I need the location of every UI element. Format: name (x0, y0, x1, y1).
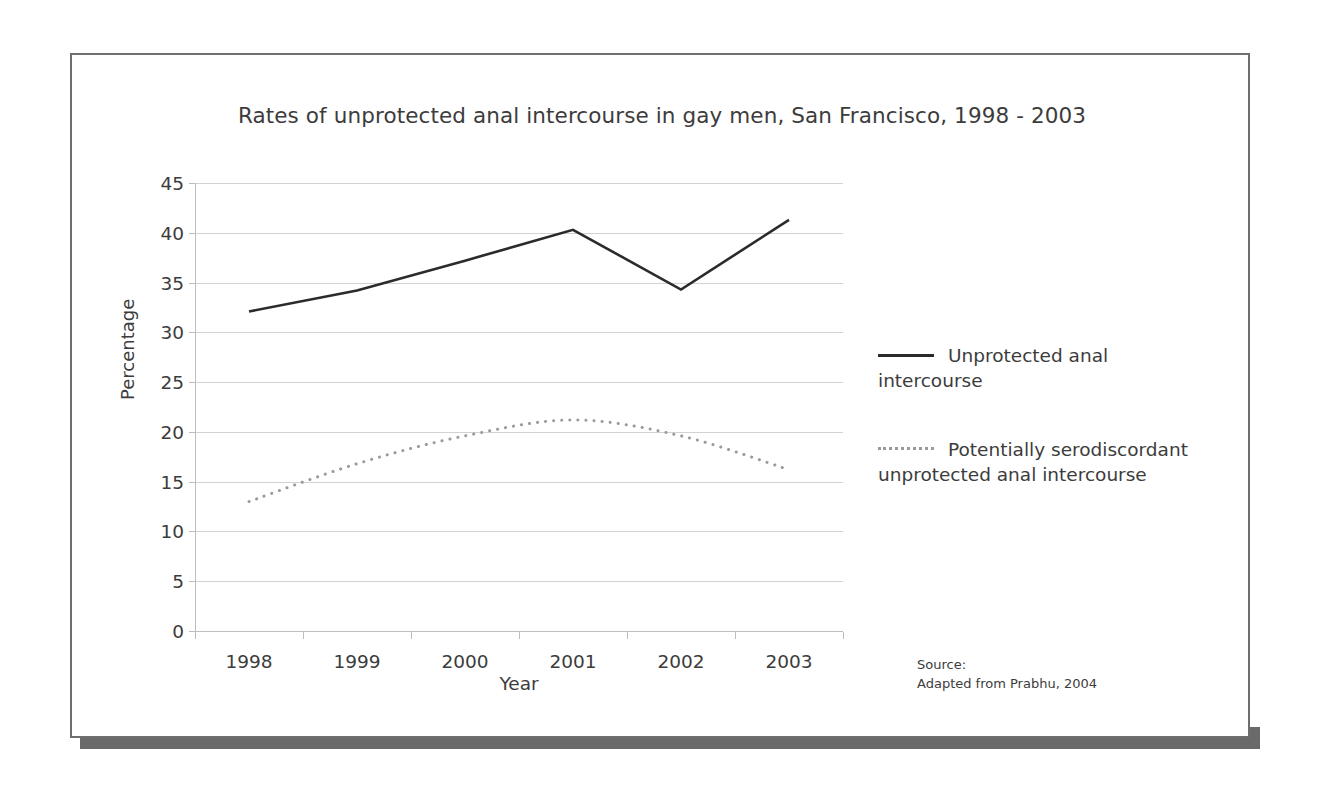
series-line (249, 220, 789, 312)
x-axis-tick-label: 2003 (765, 651, 812, 672)
source-label: Source: (917, 655, 1097, 674)
chart-legend: Unprotected anal intercourse Potentially… (878, 343, 1218, 531)
x-axis-title: Year (195, 673, 843, 694)
plot-area: 051015202530354045 199819992000200120022… (195, 183, 843, 631)
x-axis-tick-label: 1998 (225, 651, 272, 672)
y-axis-tick-label: 0 (172, 621, 184, 642)
series-line (249, 420, 789, 502)
y-axis-tick-label: 35 (160, 272, 184, 293)
y-axis-title: Percentage (117, 299, 138, 400)
source-note: Source: Adapted from Prabhu, 2004 (917, 655, 1097, 693)
x-axis-tick-label: 2001 (549, 651, 596, 672)
y-axis-tick-label: 20 (160, 421, 184, 442)
legend-item-unprotected[interactable]: Unprotected anal intercourse (878, 343, 1218, 393)
legend-item-label: Potentially serodiscordant unprotected a… (878, 439, 1188, 485)
figure-frame: Rates of unprotected anal intercourse in… (70, 53, 1250, 738)
y-axis-tick-label: 45 (160, 173, 184, 194)
source-citation: Adapted from Prabhu, 2004 (917, 674, 1097, 693)
x-axis-tick-label: 2000 (441, 651, 488, 672)
y-axis-tick-label: 10 (160, 521, 184, 542)
legend-line-solid-icon (878, 354, 934, 357)
chart-title: Rates of unprotected anal intercourse in… (72, 103, 1252, 128)
legend-item-label: Unprotected anal intercourse (878, 345, 1108, 391)
y-axis-tick-label: 15 (160, 471, 184, 492)
y-axis-tick-label: 5 (172, 571, 184, 592)
legend-line-dotted-icon (878, 447, 934, 453)
legend-item-serodiscordant[interactable]: Potentially serodiscordant unprotected a… (878, 437, 1218, 487)
x-axis-tick-label: 2002 (657, 651, 704, 672)
series-plot (195, 183, 855, 643)
y-axis-tick-label: 40 (160, 222, 184, 243)
y-axis-tick-label: 30 (160, 322, 184, 343)
y-axis-tick-label: 25 (160, 372, 184, 393)
x-axis-tick-label: 1999 (333, 651, 380, 672)
